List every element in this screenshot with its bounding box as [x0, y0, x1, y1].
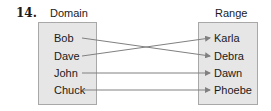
mapping-arrows [0, 0, 271, 111]
